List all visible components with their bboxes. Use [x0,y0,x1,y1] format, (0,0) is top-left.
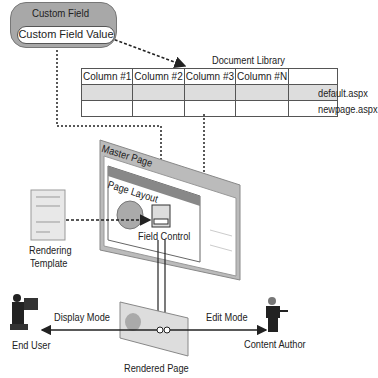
custom-field-title: Custom Field [32,7,89,19]
content-author-label: Content Author [244,338,306,350]
display-mode-label: Display Mode [54,311,110,323]
custom-field-value: Custom Field Value [17,26,115,44]
column-header: Column #2 [133,69,184,85]
document-library-title: Document Library [212,54,285,66]
column-header: Column #3 [184,69,235,85]
table-header-row: Column #1 Column #2 Column #3 Column #N [82,69,338,85]
edit-mode-label: Edit Mode [206,311,248,323]
row-label-newpage: newpage.aspx [318,103,378,115]
column-header [289,69,338,85]
document-library-table: Column #1 Column #2 Column #3 Column #N [81,68,338,117]
rendering-template-label-2: Template [30,257,67,269]
column-header: Column #1 [82,69,133,85]
column-header: Column #N [236,69,289,85]
field-control-label: Field Control [138,230,190,242]
end-user-label: End User [12,339,51,351]
rendered-page-label: Rendered Page [124,362,189,374]
rendering-template-label: Rendering [29,244,72,256]
row-label-default: default.aspx [318,87,368,99]
table-row [82,85,338,101]
table-row [82,101,338,117]
